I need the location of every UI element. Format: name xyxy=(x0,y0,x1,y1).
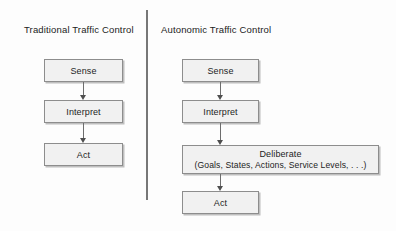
node-sublabel: (Goals, States, Actions, Service Levels,… xyxy=(195,160,367,170)
node-autonomic-deliberate: Deliberate (Goals, States, Actions, Serv… xyxy=(182,145,379,174)
arrow-autonomic-sense-to-interpret xyxy=(216,82,225,100)
node-label: Sense xyxy=(70,66,96,76)
node-label: Deliberate xyxy=(259,149,301,159)
node-traditional-act: Act xyxy=(44,143,123,166)
node-label: Act xyxy=(77,150,90,160)
diagram-canvas: Traditional Traffic Control Autonomic Tr… xyxy=(0,0,396,231)
node-label: Sense xyxy=(207,66,233,76)
column-title-autonomic: Autonomic Traffic Control xyxy=(161,24,271,35)
arrow-traditional-interpret-to-act xyxy=(79,123,88,143)
node-label: Act xyxy=(214,198,227,208)
column-title-traditional: Traditional Traffic Control xyxy=(24,24,134,35)
arrow-traditional-sense-to-interpret xyxy=(79,82,88,100)
arrow-autonomic-deliberate-to-act xyxy=(216,174,225,191)
node-label: Interpret xyxy=(203,107,237,117)
node-autonomic-interpret: Interpret xyxy=(182,100,259,123)
node-traditional-interpret: Interpret xyxy=(44,100,123,123)
node-traditional-sense: Sense xyxy=(44,59,123,82)
arrow-autonomic-interpret-to-deliberate xyxy=(216,123,225,145)
column-divider xyxy=(146,10,148,200)
node-autonomic-act: Act xyxy=(182,191,259,214)
node-label: Interpret xyxy=(66,107,100,117)
node-autonomic-sense: Sense xyxy=(182,59,259,82)
